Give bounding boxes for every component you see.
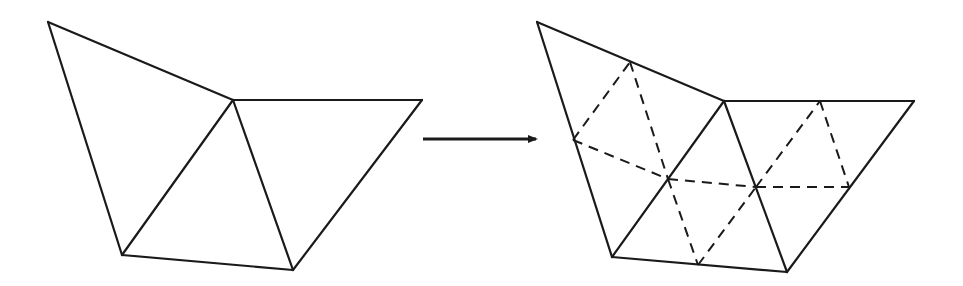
subdivision-edge-G2-M_BC: [756, 101, 820, 187]
subdivision-edge-M_BC-M_CE: [820, 101, 849, 187]
subdivision-edge-G1-G2: [668, 179, 756, 187]
mesh-edge-AB: [537, 22, 724, 101]
mesh-edge-BE: [233, 100, 293, 270]
subdivision-edge-M_AD-M_AB: [573, 62, 630, 140]
right-refined-mesh: [537, 22, 914, 272]
mesh-subdivision-diagram: [0, 0, 963, 286]
subdivision-edge-M_AB-G1: [630, 62, 668, 179]
mesh-edge-DA: [48, 22, 122, 255]
mesh-edge-AB: [48, 22, 233, 100]
subdivision-edge-M_DE-G2: [698, 187, 756, 265]
diagram-stage: [0, 0, 963, 286]
mesh-edge-DB: [122, 100, 233, 255]
mesh-edge-CE: [293, 100, 422, 270]
mesh-edge-ED: [122, 255, 293, 270]
mesh-edge-CE: [787, 101, 914, 272]
subdivision-edge-G1-M_DE: [668, 179, 698, 265]
left-coarse-mesh: [48, 22, 422, 270]
subdivision-edge-M_AD-G1: [573, 140, 668, 179]
